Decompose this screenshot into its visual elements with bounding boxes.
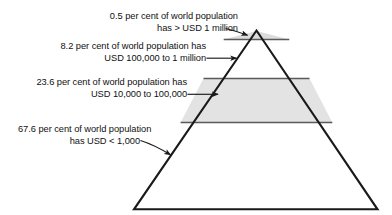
label-bottom-tier: 67.6 per cent of world population has US… [18, 123, 140, 147]
pyramid-band-third [181, 79, 333, 123]
label-top-tier-line2: has > USD 1 million [92, 22, 238, 34]
leader-line-bottom [141, 141, 171, 155]
pyramid-band-bottom [134, 123, 377, 210]
label-bottom-tier-line1: 67.6 per cent of world population [18, 123, 140, 135]
label-third-tier: 23.6 per cent of world population has US… [36, 76, 187, 100]
label-top-tier: 0.5 per cent of world population has > U… [92, 10, 238, 34]
label-second-tier: 8.2 per cent of world population has USD… [58, 40, 206, 64]
label-third-tier-line2: USD 10,000 to 100,000 [36, 88, 187, 100]
label-top-tier-line1: 0.5 per cent of world population [92, 10, 238, 22]
label-bottom-tier-line2: has USD < 1,000 [18, 135, 140, 147]
wealth-pyramid-figure: 0.5 per cent of world population has > U… [0, 0, 392, 215]
pyramid-band-second [204, 40, 310, 79]
label-third-tier-line1: 23.6 per cent of world population has [36, 76, 187, 88]
label-second-tier-line2: USD 100,000 to 1 million [58, 52, 206, 64]
label-second-tier-line1: 8.2 per cent of world population has [58, 40, 206, 52]
